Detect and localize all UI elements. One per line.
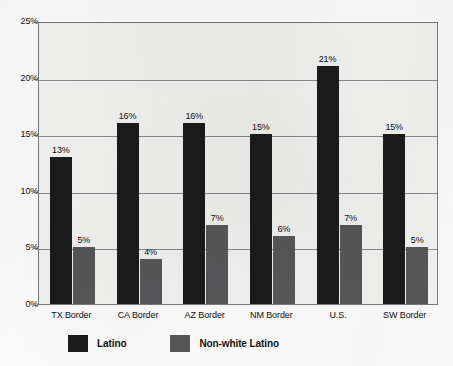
y-axis-tick-label: 20% <box>4 74 38 83</box>
bar-value-label: 7% <box>197 214 237 223</box>
bar-nonwhite-latino <box>273 236 295 304</box>
bar-value-label: 16% <box>108 112 148 121</box>
bar-value-label: 4% <box>131 248 171 257</box>
chart-legend: LatinoNon-white Latino <box>38 332 279 354</box>
gridline <box>39 249 437 250</box>
bar-latino <box>317 66 339 304</box>
y-axis-tick-label: 0% <box>4 300 38 309</box>
y-axis-tick-label: 10% <box>4 187 38 196</box>
y-axis-tick-mark <box>34 305 38 306</box>
legend-item-label: Latino <box>97 338 126 349</box>
gridline <box>39 193 437 194</box>
bar-nonwhite-latino <box>340 225 362 304</box>
bar-latino <box>50 157 72 304</box>
black-swatch-icon <box>68 335 88 352</box>
bar-value-label: 15% <box>241 123 281 132</box>
x-axis-tick-label: SW Border <box>365 310 445 320</box>
y-axis-tick-label: 5% <box>4 243 38 252</box>
bar-nonwhite-latino <box>140 259 162 304</box>
bar-value-label: 15% <box>374 123 414 132</box>
bar-latino <box>383 134 405 304</box>
legend-item-nonwhite-latino: Non-white Latino <box>170 335 279 352</box>
gridline <box>39 136 437 137</box>
bar-value-label: 13% <box>41 146 81 155</box>
bar-value-label: 7% <box>331 214 371 223</box>
bar-nonwhite-latino <box>206 225 228 304</box>
chart-screenshot: 0%5%10%15%20%25% 13%5%16%4%16%7%15%6%21%… <box>0 0 453 366</box>
y-axis-tick-label: 15% <box>4 130 38 139</box>
plot-area: 13%5%16%4%16%7%15%6%21%7%15%5% <box>38 22 438 305</box>
bar-nonwhite-latino <box>73 247 95 304</box>
bar-value-label: 5% <box>397 236 437 245</box>
gray-swatch-icon <box>170 335 190 352</box>
y-axis-tick-label: 25% <box>4 17 38 26</box>
bar-nonwhite-latino <box>406 247 428 304</box>
bar-value-label: 6% <box>264 225 304 234</box>
legend-item-latino: Latino <box>68 335 126 352</box>
legend-item-label: Non-white Latino <box>199 338 279 349</box>
bar-latino <box>250 134 272 304</box>
bar-value-label: 16% <box>174 112 214 121</box>
gridline <box>39 80 437 81</box>
bar-latino <box>117 123 139 304</box>
bar-value-label: 21% <box>308 55 348 64</box>
bar-value-label: 5% <box>64 236 104 245</box>
y-axis: 0%5%10%15%20%25% <box>0 0 38 320</box>
